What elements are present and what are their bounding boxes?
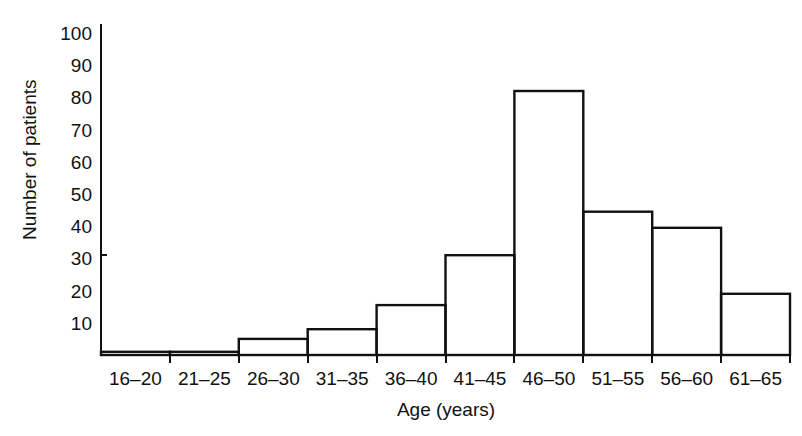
y-tick-label: 70 (71, 120, 92, 141)
y-axis-title: Number of patients (19, 79, 40, 240)
x-tick-label: 56–60 (660, 368, 713, 389)
y-axis-tick-labels: 100 90 80 70 60 50 40 30 20 10 (60, 23, 92, 334)
chart-canvas: 100 90 80 70 60 50 40 30 20 10 Number of… (0, 0, 802, 436)
y-tick-label: 30 (71, 248, 92, 269)
x-tick-label: 46–50 (522, 368, 575, 389)
x-tick-label: 31–35 (316, 368, 369, 389)
bar-26-30 (239, 339, 308, 355)
bar-41-45 (446, 255, 515, 355)
x-axis-category-labels: 16–20 21–25 26–30 31–35 36–40 41–45 46–5… (109, 368, 782, 389)
y-tick-label: 50 (71, 184, 92, 205)
histogram-bars (101, 91, 790, 355)
bar-61-65 (721, 294, 790, 355)
y-tick-label: 80 (71, 87, 92, 108)
y-tick-label: 40 (71, 216, 92, 237)
bar-21-25 (170, 352, 239, 355)
x-tick-label: 41–45 (454, 368, 507, 389)
x-axis-title: Age (years) (397, 399, 495, 420)
y-tick-label: 90 (71, 55, 92, 76)
x-tick-label: 51–55 (591, 368, 644, 389)
bar-36-40 (377, 305, 446, 355)
y-tick-label: 100 (60, 23, 92, 44)
x-tick-label: 36–40 (385, 368, 438, 389)
bar-51-55 (583, 212, 652, 355)
bar-56-60 (652, 228, 721, 355)
bar-31-35 (308, 329, 377, 355)
histogram-figure: 100 90 80 70 60 50 40 30 20 10 Number of… (0, 0, 802, 436)
bar-46-50 (514, 91, 583, 355)
x-tick-label: 26–30 (247, 368, 300, 389)
x-axis-ticks (170, 355, 790, 363)
bar-16-20 (101, 352, 170, 355)
x-tick-label: 16–20 (109, 368, 162, 389)
y-tick-label: 60 (71, 152, 92, 173)
x-tick-label: 61–65 (729, 368, 782, 389)
x-tick-label: 21–25 (178, 368, 231, 389)
y-tick-label: 20 (71, 281, 92, 302)
y-tick-label: 10 (71, 313, 92, 334)
